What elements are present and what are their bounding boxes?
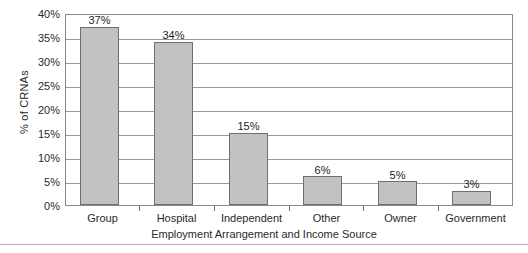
x-tick-mark (214, 206, 215, 211)
bar-value-label: 34% (148, 30, 199, 41)
gridline-25 (66, 87, 512, 88)
x-category-label: Independent (214, 212, 289, 225)
bar-value-label: 37% (74, 15, 125, 26)
bar-hospital (154, 42, 193, 205)
bar-government (452, 191, 491, 205)
bar-value-label: 5% (372, 170, 423, 181)
x-category-label: Group (65, 212, 140, 225)
gridline-10 (66, 159, 512, 160)
x-tick-mark (289, 206, 290, 211)
bar-chart-figure: % of CRNAs 40% 35% 30% 25% 20% 15% 10% 5… (0, 0, 528, 253)
bar-independent (229, 133, 268, 205)
bottom-divider (0, 244, 528, 245)
x-category-label: Owner (363, 212, 438, 225)
x-tick-mark (438, 206, 439, 211)
gridline-15 (66, 135, 512, 136)
y-tick-label: 5% (26, 177, 60, 188)
x-tick-mark (139, 206, 140, 211)
x-category-label: Other (289, 212, 364, 225)
y-tick-label: 20% (26, 105, 60, 116)
bar-owner (378, 181, 417, 205)
gridline-20 (66, 111, 512, 112)
y-tick-label: 10% (26, 153, 60, 164)
x-category-label: Hospital (139, 212, 214, 225)
plot-area: 37% 34% 15% 6% 5% 3% (65, 14, 513, 206)
y-tick-label: 0% (26, 201, 60, 212)
y-tick-label: 35% (26, 33, 60, 44)
y-tick-label: 30% (26, 57, 60, 68)
y-tick-label: 25% (26, 81, 60, 92)
x-category-label: Government (438, 212, 513, 225)
gridline-35 (66, 39, 512, 40)
bar-value-label: 6% (297, 165, 348, 176)
bar-group (80, 27, 119, 205)
bar-value-label: 15% (223, 121, 274, 132)
y-tick-label: 15% (26, 129, 60, 140)
y-axis-tick-labels: 40% 35% 30% 25% 20% 15% 10% 5% 0% (22, 0, 60, 253)
x-tick-mark (363, 206, 364, 211)
gridline-30 (66, 63, 512, 64)
bar-other (303, 176, 342, 205)
y-tick-label: 40% (26, 9, 60, 20)
bar-value-label: 3% (446, 179, 497, 190)
x-axis-title: Employment Arrangement and Income Source (0, 228, 528, 240)
